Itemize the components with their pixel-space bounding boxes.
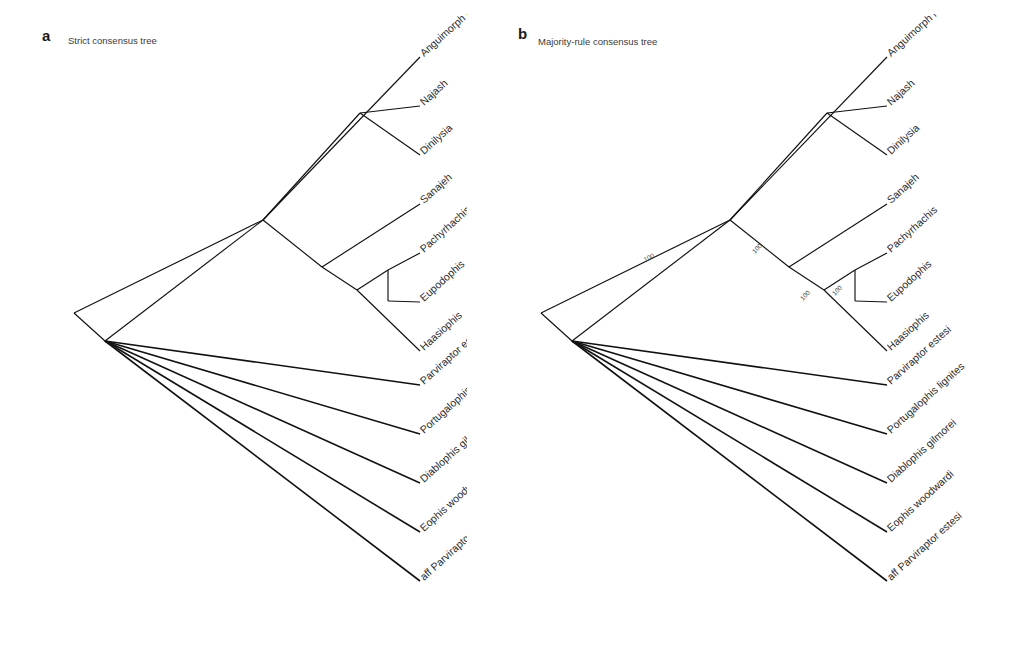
branch-pachyrhachis-b <box>855 253 887 270</box>
branch-root-lower-a <box>74 313 105 341</box>
branch-eupodophis-b <box>855 301 887 302</box>
tree-tip-labels-b: Anguimorph root Najash Dinilysia Sanajeh… <box>884 14 966 582</box>
branch-sanajeh-a <box>322 204 420 267</box>
support-label-pachy-eupo-b: 100 <box>831 284 844 297</box>
tip-label-anguimorph-root-a: Anguimorph root <box>417 14 467 58</box>
branch-marine-stem-a <box>322 267 357 290</box>
branch-pachyrhachis-a <box>388 253 420 270</box>
tip-label-sanajeh-a: Sanajeh <box>417 171 454 206</box>
support-label-anguimorph-stem-b: 100 <box>642 252 655 263</box>
branch-pachy-eupo-stem-a <box>357 270 388 290</box>
tip-label-pachyrhachis-a: Pachyrhachis <box>417 203 467 254</box>
branch-root-to-crown-b <box>541 220 730 313</box>
branch-portugalophis-b <box>572 341 887 434</box>
tip-label-pachyrhachis-b: Pachyrhachis <box>884 203 939 254</box>
branch-sanajeh-b <box>789 204 887 267</box>
branch-polytomy-to-crown-a <box>105 220 263 341</box>
tree-branches-b <box>541 57 887 581</box>
branch-sanajeh-clade-stem-a <box>263 220 322 267</box>
tip-label-sanajeh-b: Sanajeh <box>884 171 921 206</box>
tree-support-labels-b: 100 100 100 100 <box>642 242 843 302</box>
branch-eophis-a <box>105 341 420 532</box>
tip-label-eupodophis-a: Eupodophis <box>417 257 466 303</box>
tree-panel-a: Anguimorph root Najash Dinilysia Sanajeh… <box>0 14 467 654</box>
tip-label-dinilysia-a: Dinilysia <box>417 121 454 156</box>
branch-eupodophis-a <box>388 301 420 302</box>
support-label-sanajeh-clade-b: 100 <box>799 289 812 302</box>
support-label-najash-dinilysia-b: 100 <box>751 242 764 255</box>
tip-label-najash-a: Najash <box>417 77 449 108</box>
figure-canvas: a Strict consensus tree <box>0 0 1021 666</box>
branch-polytomy-to-crown-b <box>572 220 730 341</box>
tree-tip-labels-a: Anguimorph root Najash Dinilysia Sanajeh… <box>417 14 467 582</box>
branch-najash-dinilysia-stem-b <box>730 113 827 220</box>
tree-branches-a <box>74 57 420 581</box>
branch-marine-stem-b <box>789 267 824 290</box>
branch-dinilysia-b <box>827 113 887 155</box>
branch-root-to-crown-a <box>74 220 263 313</box>
branch-root-lower-b <box>541 313 572 341</box>
branch-eophis-b <box>572 341 887 532</box>
branch-najash-dinilysia-stem-a <box>263 113 360 220</box>
branch-portugalophis-a <box>105 341 420 434</box>
tip-label-eupodophis-b: Eupodophis <box>884 257 933 303</box>
tip-label-najash-b: Najash <box>884 77 916 108</box>
tip-label-anguimorph-root-b: Anguimorph root <box>884 14 950 58</box>
tree-panel-b: 100 100 100 100 Anguimorph root Najash D… <box>467 14 967 654</box>
tip-label-dinilysia-b: Dinilysia <box>884 121 921 156</box>
branch-dinilysia-a <box>360 113 420 155</box>
